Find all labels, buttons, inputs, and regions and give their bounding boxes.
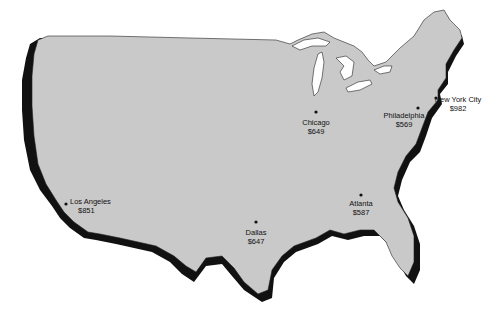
city-price: $587 bbox=[349, 208, 372, 217]
city-price: $569 bbox=[384, 120, 425, 129]
city-name: Philadelphia bbox=[384, 111, 425, 120]
city-name: Atlanta bbox=[349, 199, 372, 208]
city-price: $851 bbox=[70, 206, 111, 215]
city-label-los-angeles: Los Angeles $851 bbox=[70, 197, 111, 215]
us-map: Los Angeles $851 Dallas $647 Chicago $64… bbox=[0, 0, 498, 329]
city-label-dallas: Dallas $647 bbox=[246, 228, 267, 246]
city-name: Dallas bbox=[246, 228, 267, 237]
city-price: $982 bbox=[435, 104, 482, 113]
city-dot-dallas bbox=[254, 220, 257, 223]
city-dot-los-angeles bbox=[64, 202, 67, 205]
city-price: $647 bbox=[246, 237, 267, 246]
city-dot-atlanta bbox=[359, 193, 362, 196]
city-label-chicago: Chicago $649 bbox=[302, 118, 330, 136]
city-dot-chicago bbox=[314, 110, 317, 113]
city-label-atlanta: Atlanta $587 bbox=[349, 199, 372, 217]
city-name: New York City bbox=[435, 95, 482, 104]
city-name: Los Angeles bbox=[70, 197, 111, 206]
city-name: Chicago bbox=[302, 118, 330, 127]
city-label-new-york-city: New York City $982 bbox=[435, 95, 482, 113]
city-dot-philadelphia bbox=[416, 106, 419, 109]
city-label-philadelphia: Philadelphia $569 bbox=[384, 111, 425, 129]
map-land bbox=[32, 10, 462, 294]
city-price: $649 bbox=[302, 127, 330, 136]
us-map-graphic bbox=[0, 0, 498, 329]
